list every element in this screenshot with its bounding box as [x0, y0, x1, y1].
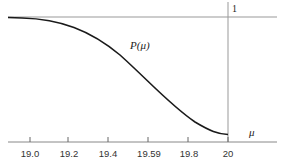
unity-label: 1	[232, 3, 237, 14]
tick-label-20: 20	[223, 148, 234, 159]
probability-chart: 19.0 19.2 19.4 19.59 19.8 20 P(μ) 1 μ	[0, 0, 285, 163]
tick-label-19-0: 19.0	[21, 148, 40, 159]
curve-label: P(μ)	[129, 39, 150, 52]
p-mu-curve	[8, 18, 228, 135]
tick-label-19-8: 19.8	[180, 148, 199, 159]
x-axis-variable-label: μ	[248, 126, 255, 138]
x-axis-ticks	[30, 137, 228, 142]
tick-label-19-2: 19.2	[60, 148, 79, 159]
tick-label-19-4: 19.4	[99, 148, 118, 159]
x-tick-labels: 19.0 19.2 19.4 19.59 19.8 20	[21, 148, 234, 159]
tick-label-19-59: 19.59	[137, 148, 161, 159]
